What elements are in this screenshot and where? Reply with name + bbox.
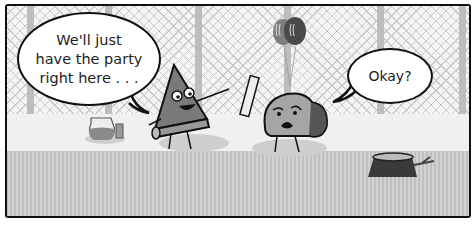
pitcher-icon (87, 114, 127, 144)
tree-stump-icon (362, 151, 442, 181)
comic-panel: We'll just have the party right here . .… (5, 4, 471, 218)
taco-character (237, 68, 337, 158)
fence-post (459, 6, 466, 118)
speech-bubble-taco: Okay? (347, 48, 433, 104)
pizza-slice-character (147, 61, 237, 151)
speech-line: We'll just (36, 31, 143, 50)
speech-line: right here . . . (36, 69, 143, 88)
speech-line: have the party (36, 50, 143, 69)
speech-bubble-pizza: We'll just have the party right here . .… (17, 12, 161, 106)
speech-line: Okay? (368, 68, 411, 84)
